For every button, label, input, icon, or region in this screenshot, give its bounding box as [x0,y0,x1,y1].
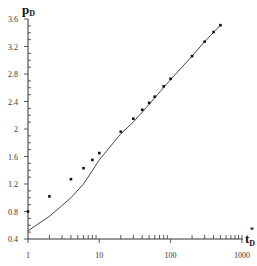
data-point [48,195,51,198]
y-tick-label: 2.8 [8,70,18,79]
chart: 0.40.81.21.622.42.83.23.6 1101001000 pD … [0,0,257,266]
data-point [148,102,151,105]
x-tick-label: 10 [95,251,103,260]
y-tick-label: 3.6 [8,15,18,24]
data-point [70,178,73,181]
data-point [212,31,215,34]
data-points [27,24,222,213]
x-axis-title-star: * [250,226,254,235]
data-point [132,117,135,120]
data-point [219,24,222,27]
axis-ticks [24,19,242,243]
data-point [153,95,156,98]
x-tick-label: 1000 [234,251,250,260]
y-tick-label: 1.2 [8,180,18,189]
data-point [27,210,30,213]
data-point [169,78,172,81]
y-tick-label: 2 [14,125,18,134]
y-tick-labels: 0.40.81.21.622.42.83.23.6 [8,15,18,244]
data-point [98,152,101,155]
data-point [141,108,144,111]
y-tick-label: 0.4 [8,235,18,244]
data-point [203,40,206,43]
y-tick-label: 2.4 [8,98,18,107]
data-point [82,167,85,170]
x-tick-labels: 1101001000 [26,251,250,260]
x-tick-label: 100 [165,251,177,260]
data-point [91,159,94,162]
data-point [191,55,194,58]
data-point [119,130,122,133]
y-tick-label: 1.6 [8,153,18,162]
y-tick-label: 0.8 [8,208,18,217]
x-tick-label: 1 [26,251,30,260]
y-tick-label: 3.2 [8,43,18,52]
y-axis-title: pD [22,2,35,18]
data-point [162,85,165,88]
